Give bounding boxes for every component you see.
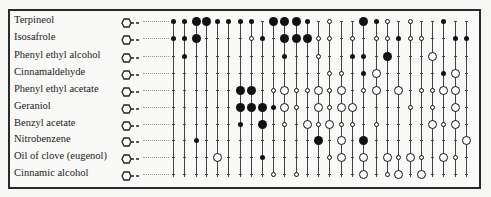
tick-mark — [306, 174, 309, 175]
tick-mark — [195, 157, 198, 158]
column-line — [206, 21, 207, 177]
tick-mark — [362, 107, 365, 108]
tick-mark — [431, 174, 434, 175]
tick-mark — [261, 56, 264, 57]
tick-mark — [172, 140, 175, 141]
tick-mark — [295, 124, 298, 125]
large-filled-dot — [280, 34, 289, 43]
small-open-dot — [396, 155, 401, 160]
tick-mark — [216, 56, 219, 57]
column-line — [173, 21, 174, 177]
small-open-dot — [282, 122, 287, 127]
tick-mark — [362, 124, 365, 125]
tick-mark — [205, 56, 208, 57]
tick-mark — [239, 174, 242, 175]
tick-mark — [216, 73, 219, 74]
tick-mark — [195, 174, 198, 175]
tick-mark — [431, 157, 434, 158]
tick-mark — [386, 140, 389, 141]
tick-mark — [465, 90, 468, 91]
tick-mark — [261, 140, 264, 141]
column-line — [273, 21, 274, 177]
tick-mark — [340, 56, 343, 57]
tick-mark — [272, 157, 275, 158]
tick-mark — [454, 174, 457, 175]
small-filled-dot — [396, 36, 401, 41]
small-filled-dot — [260, 36, 265, 41]
column-line — [398, 21, 399, 177]
tick-mark — [375, 157, 378, 158]
large-filled-dot — [383, 52, 392, 61]
column-line — [318, 21, 319, 177]
tick-mark — [250, 174, 253, 175]
large-open-dot — [439, 153, 448, 162]
tick-mark — [195, 56, 198, 57]
large-filled-dot — [258, 103, 267, 112]
small-open-dot — [327, 36, 332, 41]
small-filled-dot — [238, 122, 243, 127]
large-filled-dot — [247, 86, 256, 95]
tick-mark — [261, 73, 264, 74]
large-filled-dot — [192, 34, 201, 43]
leader-dots — [143, 56, 169, 57]
column-line — [421, 21, 422, 177]
small-filled-dot — [226, 19, 231, 24]
tick-mark — [465, 174, 468, 175]
large-open-dot — [337, 136, 346, 145]
small-open-dot — [316, 122, 321, 127]
small-filled-dot — [182, 19, 187, 24]
leader-dots — [143, 73, 169, 74]
tick-mark — [317, 73, 320, 74]
large-open-dot — [383, 153, 392, 162]
tick-mark — [351, 157, 354, 158]
tick-mark — [195, 73, 198, 74]
large-open-dot — [325, 120, 334, 129]
leader-dots — [143, 124, 169, 125]
tick-mark — [351, 174, 354, 175]
tick-mark — [227, 38, 230, 39]
tick-mark — [397, 56, 400, 57]
tick-mark — [227, 107, 230, 108]
tick-mark — [172, 107, 175, 108]
tick-mark — [172, 157, 175, 158]
small-open-dot — [339, 122, 344, 127]
tick-mark — [272, 124, 275, 125]
large-open-dot — [451, 86, 460, 95]
tick-mark — [409, 73, 412, 74]
large-open-dot — [337, 86, 346, 95]
tick-mark — [239, 140, 242, 141]
column-line — [196, 21, 197, 177]
small-open-dot — [453, 155, 458, 160]
tick-mark — [431, 73, 434, 74]
tick-mark — [283, 174, 286, 175]
large-filled-dot — [258, 120, 267, 129]
small-filled-dot — [194, 138, 199, 143]
tick-mark — [465, 21, 468, 22]
small-open-dot — [327, 19, 332, 24]
tick-mark — [250, 73, 253, 74]
tick-mark — [431, 21, 434, 22]
tick-mark — [227, 124, 230, 125]
leader-dots — [143, 140, 169, 141]
tick-mark — [340, 38, 343, 39]
tick-mark — [216, 140, 219, 141]
tick-mark — [205, 140, 208, 141]
small-open-dot — [350, 122, 355, 127]
large-open-dot — [359, 153, 368, 162]
column-line — [251, 21, 252, 177]
large-filled-dot — [236, 86, 245, 95]
tick-mark — [205, 73, 208, 74]
small-open-dot — [249, 36, 254, 41]
small-filled-dot — [374, 19, 379, 24]
tick-mark — [295, 56, 298, 57]
tick-mark — [454, 21, 457, 22]
tick-mark — [261, 21, 264, 22]
tick-mark — [205, 38, 208, 39]
small-open-dot — [294, 172, 299, 177]
compound-label: Oil of clove (eugenol) — [14, 150, 107, 162]
column-line — [228, 21, 229, 177]
large-filled-dot — [314, 136, 323, 145]
column-line — [184, 21, 185, 177]
tick-mark — [420, 140, 423, 141]
large-filled-dot — [292, 17, 301, 26]
